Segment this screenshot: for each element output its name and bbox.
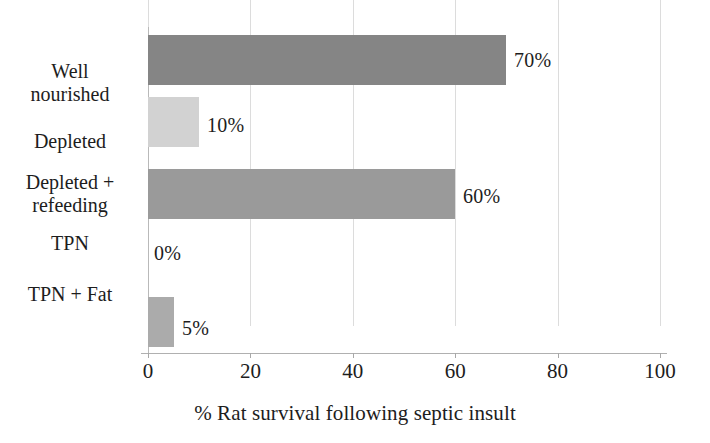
bar-value-label-depleted-refeeding: 60% [463, 184, 500, 207]
x-axis-line [141, 353, 667, 354]
tick-mark-80 [558, 353, 559, 358]
x-axis-title: % Rat survival following septic insult [0, 401, 710, 426]
x-tick-label-40: 40 [342, 359, 363, 384]
category-label-line2: refeeding [0, 194, 140, 217]
category-label-line1: Depleted + [0, 171, 140, 194]
bar-row-tpn-fat: 5% [148, 288, 660, 353]
x-tick-label-80: 80 [547, 359, 568, 384]
x-tick-label-20: 20 [240, 359, 261, 384]
gridline-100 [660, 0, 661, 326]
category-label-well-nourished: Well nourished [0, 60, 140, 106]
bar-well-nourished[interactable] [148, 35, 506, 85]
tick-mark-60 [455, 353, 456, 358]
tick-mark-20 [250, 353, 251, 358]
bar-row-well-nourished: 70% [148, 27, 660, 92]
x-tick-label-60: 60 [445, 359, 466, 384]
category-label-line1: Depleted [0, 130, 140, 153]
category-label-line1: TPN [0, 232, 140, 255]
bar-row-depleted: 10% [148, 92, 660, 157]
category-label-line2: nourished [0, 83, 140, 106]
bar-value-label-depleted: 10% [207, 113, 244, 136]
bar-tpn-fat[interactable] [148, 297, 174, 347]
tick-mark-40 [353, 353, 354, 358]
bar-chart: Well nourished Depleted Depleted + refee… [0, 0, 710, 443]
category-label-depleted: Depleted [0, 130, 140, 153]
bar-row-depleted-refeeding: 60% [148, 157, 660, 222]
tick-mark-0 [148, 353, 149, 358]
category-label-depleted-refeeding: Depleted + refeeding [0, 171, 140, 217]
bar-value-label-tpn: 0% [154, 242, 181, 265]
category-label-tpn: TPN [0, 232, 140, 255]
bar-value-label-tpn-fat: 5% [182, 317, 209, 340]
bar-row-tpn: 0% [148, 223, 660, 288]
tick-mark-100 [660, 353, 661, 358]
x-tick-label-0: 0 [143, 359, 154, 384]
bar-depleted[interactable] [148, 97, 199, 147]
plot-area: 70% 10% 60% 0% 5% [148, 27, 660, 353]
category-label-line1: Well [0, 60, 140, 83]
bar-depleted-refeeding[interactable] [148, 169, 455, 219]
category-label-line1: TPN + Fat [0, 283, 140, 306]
category-label-tpn-fat: TPN + Fat [0, 283, 140, 306]
x-tick-label-100: 100 [644, 359, 676, 384]
bar-value-label-well-nourished: 70% [514, 48, 551, 71]
